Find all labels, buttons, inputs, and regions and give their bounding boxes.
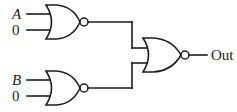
gate-top-body: [46, 5, 80, 39]
label-input-b-const: 0: [12, 88, 20, 104]
logic-circuit-diagram: A 0 B 0 Out: [0, 0, 237, 112]
gate-top-nor[interactable]: [27, 5, 132, 39]
label-input-a: A: [11, 6, 22, 22]
gate-top-inversion-bubble-icon: [80, 18, 88, 26]
label-input-a-const: 0: [12, 22, 20, 38]
label-input-b: B: [12, 72, 21, 88]
circuit-canvas: A 0 B 0 Out: [0, 0, 237, 112]
gate-output-nor[interactable]: [143, 38, 207, 72]
gate-output-inversion-bubble-icon: [181, 51, 189, 59]
label-output: Out: [211, 47, 234, 63]
gate-bottom-nor[interactable]: [27, 71, 132, 105]
gate-output-body: [143, 38, 181, 72]
gate-bottom-inversion-bubble-icon: [80, 84, 88, 92]
gate-bottom-body: [46, 71, 80, 105]
interconnect-bus: [132, 22, 147, 88]
